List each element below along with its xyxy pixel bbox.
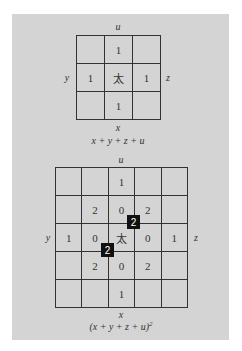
grid-cell: 1: [162, 224, 188, 252]
d1-caption: x + y + z + u: [91, 135, 144, 146]
grid-cell: [56, 280, 82, 308]
d2-caption-exponent: 2: [149, 320, 153, 328]
grid-square: 1 2 0 2 1 0 太 0 1 2 0 2 1: [55, 167, 188, 308]
highlight-badge: 2: [127, 215, 140, 229]
d2-label-top: u: [119, 154, 124, 165]
grid-cell: [77, 92, 105, 120]
d1-label-top: u: [116, 21, 121, 32]
grid-cell: 2: [135, 252, 161, 280]
grid-cell: [162, 196, 188, 224]
grid-cell: 2: [82, 196, 108, 224]
d1-label-left: y: [65, 72, 69, 83]
grid-cell: [135, 168, 161, 196]
grid-cell: 1: [56, 224, 82, 252]
grid-cell: [82, 168, 108, 196]
grid-cell: [162, 168, 188, 196]
d2-caption: (x + y + z + u)2: [89, 320, 152, 332]
grid-cell: [77, 36, 105, 64]
grid-cell: [82, 280, 108, 308]
d2-label-bottom: x: [119, 309, 123, 320]
grid-cell: [162, 280, 188, 308]
grid-cell: [162, 252, 188, 280]
grid-sum: 1 1 太 1 1: [76, 35, 161, 120]
highlight-badge: 2: [101, 243, 114, 257]
grid-cell: 1: [105, 36, 133, 64]
grid-cell: 1: [133, 64, 161, 92]
grid-cell: 1: [109, 168, 135, 196]
grid-cell: 1: [109, 280, 135, 308]
grid-cell: [135, 280, 161, 308]
grid-cell: [56, 252, 82, 280]
grid-cell: [133, 36, 161, 64]
grid-cell-center: 太: [105, 64, 133, 92]
d1-label-bottom: x: [116, 122, 120, 133]
grid-cell: 1: [105, 92, 133, 120]
d2-label-right: z: [194, 232, 198, 243]
d2-caption-base: (x + y + z + u): [89, 321, 149, 332]
grid-cell: [133, 92, 161, 120]
grid-cell: [56, 168, 82, 196]
grid-cell: 1: [77, 64, 105, 92]
grid-cell: [56, 196, 82, 224]
d1-label-right: z: [166, 72, 170, 83]
d2-label-left: y: [46, 232, 50, 243]
